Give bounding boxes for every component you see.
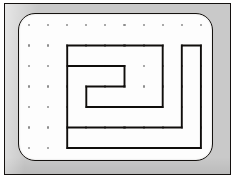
geoboard-diagram xyxy=(0,0,237,180)
surface-inner-shadow xyxy=(19,14,212,160)
geoboard-surface xyxy=(18,13,213,161)
